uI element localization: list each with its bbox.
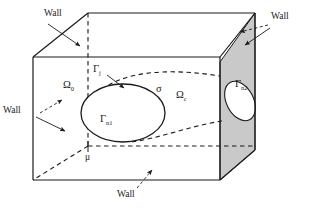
label-mu: μ [85, 153, 90, 163]
label-wall-left: Wall [3, 106, 21, 116]
label-wall-top-right: Wall [271, 12, 289, 22]
label-sigma: σ [156, 84, 162, 95]
label-omega-c: Ωc [176, 90, 187, 103]
figure-canvas: Wall Wall Wall Wall Ω0 Ωc σ Γj Γn1 Γn2 μ [0, 0, 309, 217]
label-gamma-n2-subscript: n2 [241, 84, 248, 91]
label-omega-0-symbol: Ω [63, 79, 71, 90]
label-omega-0: Ω0 [63, 80, 74, 93]
label-omega-c-symbol: Ω [176, 89, 184, 100]
hidden-edge-bottom-left-slant [33, 146, 88, 180]
arrow-wall-left-solid [36, 117, 65, 131]
label-gamma-j-subscript: j [99, 69, 101, 76]
label-gamma-j: Γj [93, 64, 101, 77]
label-gamma-n1-subscript: n1 [106, 119, 113, 126]
label-omega-c-subscript: c [184, 95, 187, 102]
label-omega-0-subscript: 0 [71, 85, 74, 92]
label-gamma-n1: Γn1 [100, 114, 113, 127]
arrow-wall-top-left [48, 24, 80, 46]
arrow-wall-bottom-dashed [137, 170, 152, 188]
edge-top-left-slant [33, 13, 88, 57]
label-gamma-n2: Γn2 [235, 79, 248, 92]
label-wall-top-left: Wall [44, 9, 62, 19]
gamma-n1-ellipse [81, 84, 165, 142]
diagram-svg [0, 0, 309, 217]
label-wall-bottom: Wall [117, 190, 135, 200]
arrow-wall-left-dashed [40, 100, 62, 113]
